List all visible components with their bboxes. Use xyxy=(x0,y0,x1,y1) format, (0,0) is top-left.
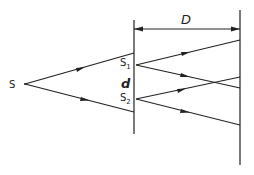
ray-s1-to-lower xyxy=(136,65,240,88)
ray-arrow-icon xyxy=(76,67,85,72)
ray-s2-to-lower xyxy=(136,99,240,125)
distance-label: D xyxy=(181,12,191,27)
double-slit-diagram: D S S1 d S2 xyxy=(0,0,254,175)
ray-arrow-icon xyxy=(181,52,190,56)
slit2-label-sub: 2 xyxy=(126,98,130,106)
ray-arrow-icon xyxy=(80,97,90,101)
source-label: S xyxy=(9,79,15,90)
ray-arrow-icon xyxy=(180,109,190,113)
slit2-label: S2 xyxy=(120,92,131,106)
ray-arrow-icon xyxy=(177,89,186,94)
distance-dimension xyxy=(134,27,240,32)
arrow-right-icon xyxy=(231,27,240,32)
ray-s2-to-upper xyxy=(136,77,240,99)
slit1-label: S1 xyxy=(120,57,131,71)
ray-arrow-icon xyxy=(180,73,190,77)
source-point xyxy=(24,83,26,85)
ray-s1-to-upper xyxy=(136,40,240,65)
ray-s-to-lower xyxy=(25,84,134,112)
arrow-left-icon xyxy=(134,27,143,32)
slit-separation-label: d xyxy=(121,76,131,91)
ray-s-to-upper xyxy=(25,53,134,84)
slit1-label-sub: 1 xyxy=(126,63,130,71)
